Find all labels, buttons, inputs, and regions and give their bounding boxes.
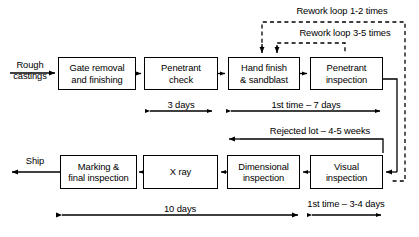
node-penetrant-check[interactable]: Penetrant check	[144, 57, 218, 90]
label-ship: Ship	[18, 155, 52, 166]
node-visual-inspection[interactable]: Visual inspection	[310, 155, 383, 189]
rework-loop-inner-path	[277, 43, 345, 53]
node-x-ray-label: X ray	[170, 166, 191, 177]
label-1st-time-7-days: 1st time – 7 days	[258, 99, 354, 110]
label-1st-time-3-4-days: 1st time – 3-4 days	[296, 198, 396, 209]
node-dimensional-inspection-label: Dimensional inspection	[238, 161, 289, 183]
label-rough-castings: Rough castings	[8, 59, 52, 81]
node-gate-removal-label: Gate removal and finishing	[69, 62, 124, 84]
node-gate-removal[interactable]: Gate removal and finishing	[58, 57, 136, 90]
node-penetrant-inspection-label: Penetrant inspection	[326, 62, 367, 84]
node-visual-inspection-label: Visual inspection	[326, 161, 367, 183]
flowchart-diagram: Gate removal and finishing Penetrant che…	[0, 0, 419, 237]
node-marking-final-inspection-label: Marking & final inspection	[68, 161, 128, 183]
path-rejected-lot	[240, 139, 383, 153]
label-rejected-lot: Rejected lot – 4-5 weeks	[248, 125, 392, 136]
node-x-ray[interactable]: X ray	[143, 155, 218, 189]
node-hand-finish-sandblast[interactable]: Hand finish & sandblast	[228, 57, 300, 90]
node-marking-final-inspection[interactable]: Marking & final inspection	[60, 155, 137, 189]
label-3-days: 3 days	[158, 99, 204, 110]
label-rework-loop-outer: Rework loop 1-2 times	[277, 5, 407, 16]
rejected-lot-path	[229, 139, 383, 153]
node-penetrant-check-label: Penetrant check	[161, 62, 201, 84]
node-dimensional-inspection[interactable]: Dimensional inspection	[227, 155, 300, 189]
path-rework-loop-3-5	[277, 43, 345, 53]
node-hand-finish-sandblast-label: Hand finish & sandblast	[240, 62, 288, 84]
node-penetrant-inspection[interactable]: Penetrant inspection	[310, 57, 383, 90]
label-10-days: 10 days	[155, 203, 205, 214]
label-rework-loop-inner: Rework loop 3-5 times	[280, 27, 410, 38]
